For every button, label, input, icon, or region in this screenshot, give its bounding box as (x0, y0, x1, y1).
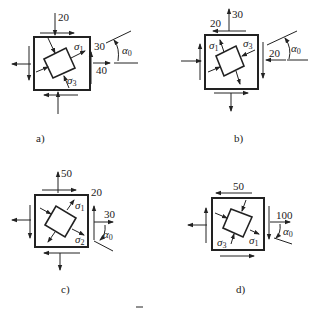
label-normal-top-a: 20 (58, 11, 70, 23)
arrow-icon (242, 200, 246, 211)
label-normal-right-d: 100 (276, 209, 293, 221)
label-normal-top-b: 30 (232, 8, 244, 20)
principal-axis-a (106, 31, 131, 43)
arrow-icon (48, 38, 55, 53)
label-sigma-1-c: σ1 (75, 199, 84, 213)
label-normal-top-c: 50 (61, 167, 73, 179)
arrow-icon (215, 213, 227, 218)
arrow-icon (231, 234, 234, 244)
caption-c: c) (61, 283, 70, 296)
label-shear-right-a: 30 (94, 40, 106, 52)
label-normal-right-b: 20 (269, 47, 281, 59)
caption-d: d) (236, 283, 246, 296)
arrow-icon (236, 71, 240, 84)
arrow-icon (48, 232, 55, 242)
label-sigma-3-a: σ3 (67, 74, 76, 88)
arrow-icon (220, 40, 224, 52)
label-normal-right-c: 30 (104, 208, 116, 220)
label-alpha-b: α0 (291, 42, 301, 56)
principal-element-d (223, 209, 252, 237)
arrow-icon (40, 208, 51, 214)
panel-c: 50 20 30 σ1 σ2 α0 c) (12, 167, 116, 296)
caption-b: b) (234, 132, 244, 145)
label-alpha-c: α0 (103, 228, 113, 242)
caption-a: a) (36, 132, 45, 145)
label-sigma-3-d: σ3 (217, 236, 226, 250)
label-shear-top-b: 20 (210, 17, 222, 29)
stress-element-figure: 20 30 40 σ1 σ3 α0 a) 30 (0, 0, 314, 309)
label-alpha-d: α0 (283, 225, 293, 239)
label-normal-right-a: 40 (96, 64, 108, 76)
arrow-icon (36, 67, 48, 72)
label-sigma-3-b: σ3 (243, 37, 252, 51)
angle-arc-icon (276, 224, 280, 238)
panel-b: 30 20 20 σ1 σ3 α0 b) (181, 8, 308, 145)
angle-arc-icon (114, 40, 119, 61)
principal-element-b (216, 46, 244, 76)
label-shear-right-c: 20 (91, 186, 103, 198)
principal-element-c (45, 206, 76, 237)
angle-arc-icon (285, 38, 290, 59)
label-sigma-1-b: σ1 (209, 39, 218, 53)
label-sigma-1-d: σ1 (249, 234, 258, 248)
label-alpha-a: α0 (122, 44, 132, 58)
label-shear-top-d: 50 (233, 180, 245, 192)
panel-a: 20 30 40 σ1 σ3 α0 a) (12, 11, 138, 145)
label-sigma-2-c: σ2 (75, 233, 84, 247)
arrow-icon (208, 67, 220, 72)
arrow-icon (67, 200, 74, 210)
panel-d: 50 100 σ3 σ1 α0 d) (188, 180, 293, 296)
principal-axis-c (94, 241, 113, 251)
label-sigma-1-a: σ1 (74, 40, 83, 54)
